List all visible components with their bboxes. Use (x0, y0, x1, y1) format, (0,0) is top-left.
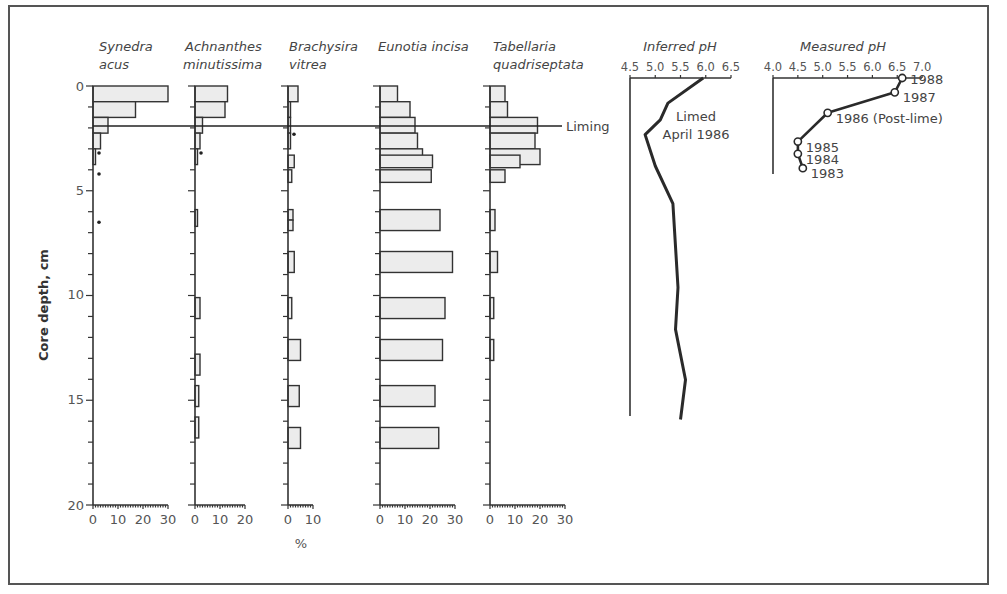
percent-tick-label: 20 (237, 512, 254, 527)
percent-tick-label: 20 (135, 512, 152, 527)
title-synedra-l1: Synedra (99, 39, 153, 54)
percent-tick-label: 30 (160, 512, 177, 527)
measured-ph-marker (824, 109, 831, 116)
panel-synedra-acus: 0102030 (86, 86, 176, 527)
title-synedra-l2: acus (99, 57, 129, 72)
panel-achnanthes-minutissima: 01020 (188, 86, 253, 527)
presence-dot (97, 172, 101, 176)
bar (93, 86, 168, 102)
inferred-ph-tick: 5.0 (646, 60, 664, 74)
presence-dot (199, 151, 203, 155)
depth-15: 15 (67, 392, 84, 407)
bar (490, 102, 508, 118)
measured-ph-marker (794, 138, 801, 145)
percent-tick-label: 0 (191, 512, 199, 527)
bar (288, 386, 299, 407)
title-tabellaria-l2: quadriseptata (493, 57, 584, 72)
measured-ph-tick: 5.0 (814, 60, 832, 74)
inferred-ph-tick: 6.5 (722, 60, 740, 74)
presence-dot (97, 220, 101, 224)
percent-tick-label: 10 (212, 512, 229, 527)
y-axis-label: Core depth, cm (36, 249, 51, 361)
bar (380, 339, 443, 360)
bar (288, 427, 301, 448)
percent-tick-label: 30 (447, 512, 464, 527)
measured-ph-marker (794, 150, 801, 157)
measured-ph-marker (799, 165, 806, 172)
percent-tick-label: 20 (422, 512, 439, 527)
measured-ph-year-label: 1986 (Post-lime) (836, 111, 943, 126)
inferred-ph-tick: 4.5 (621, 60, 639, 74)
title-achnanthes-l1: Achnanthes (184, 39, 262, 54)
bar (490, 155, 520, 168)
percent-tick-label: 10 (397, 512, 414, 527)
inferred-ph-tick: 5.5 (671, 60, 689, 74)
bar (93, 133, 101, 149)
bar (490, 170, 505, 183)
inferred-ph-tick: 6.0 (697, 60, 715, 74)
bar (288, 155, 294, 168)
bar (288, 339, 301, 360)
measured-ph-tick: 4.0 (764, 60, 782, 74)
bar (380, 102, 410, 118)
inferred-ph-tick-labels: 4.55.05.56.06.5 (621, 60, 740, 78)
liming-label: Liming (566, 119, 610, 134)
presence-dot (97, 151, 101, 155)
measured-ph-year-label: 1987 (903, 90, 936, 105)
bar (490, 252, 498, 273)
presence-dot (292, 132, 296, 136)
bar (380, 298, 445, 319)
title-achnanthes-l2: minutissima (183, 57, 262, 72)
limed-annotation-line2: April 1986 (663, 127, 730, 142)
bar (380, 252, 453, 273)
bar (380, 427, 439, 448)
bar (93, 102, 136, 118)
measured-ph-title: Measured pH (800, 39, 886, 54)
bar (380, 155, 433, 168)
measured-ph-marker (891, 89, 898, 96)
bar (195, 86, 228, 102)
bar (380, 386, 435, 407)
title-brachysira-l2: vitrea (289, 57, 327, 72)
measured-ph-points: 198819871986 (Post-lime)198519841983 (794, 72, 943, 181)
measured-ph-tick: 6.0 (863, 60, 881, 74)
panel-brachysira-vitrea: 010 (281, 86, 321, 527)
measured-ph-tick-labels: 4.04.55.05.56.06.57.0 (764, 60, 931, 78)
title-brachysira-l1: Brachysira (289, 39, 358, 54)
panel-tabellaria-quadriseptata: 0102030 (483, 86, 573, 527)
depth-10: 10 (67, 287, 84, 302)
title-eunotia: Eunotia incisa (378, 39, 469, 54)
bar (288, 252, 294, 273)
stratigraphic-chart: Core depth, cm 0 5 10 15 20 010203001020… (0, 0, 1007, 594)
percent-tick-label: 0 (284, 512, 292, 527)
percent-tick-label: 0 (89, 512, 97, 527)
bar (380, 170, 431, 183)
depth-0: 0 (76, 79, 84, 94)
title-tabellaria-l1: Tabellaria (493, 39, 556, 54)
bar (288, 86, 298, 102)
bar (380, 210, 440, 231)
percent-tick-label: 0 (486, 512, 494, 527)
depth-tick-labels: 0 5 10 15 20 (67, 79, 84, 513)
panel-eunotia-incisa: 0102030 (373, 86, 463, 527)
percent-tick-label: 10 (305, 512, 322, 527)
bar (195, 102, 225, 118)
taxa-panels: 01020300102001001020300102030 (86, 86, 573, 527)
measured-ph-year-label: 1983 (811, 166, 844, 181)
percent-tick-label: 10 (507, 512, 524, 527)
percent-tick-label: 0 (376, 512, 384, 527)
measured-ph-tick: 6.5 (888, 60, 906, 74)
depth-5: 5 (76, 183, 84, 198)
measured-ph-year-label: 1984 (806, 152, 839, 167)
percent-tick-label: 10 (110, 512, 127, 527)
bar (490, 86, 505, 102)
measured-ph-marker (899, 74, 906, 81)
limed-annotation-line1: Limed (676, 109, 716, 124)
bar (380, 133, 418, 149)
measured-ph-tick: 5.5 (838, 60, 856, 74)
bar (380, 86, 398, 102)
taxa-titles: Synedra acus Achnanthes minutissima Brac… (99, 39, 584, 72)
percent-tick-label: 30 (557, 512, 574, 527)
x-axis-percent-label: % (295, 536, 307, 551)
measured-ph-year-label: 1988 (910, 72, 943, 87)
